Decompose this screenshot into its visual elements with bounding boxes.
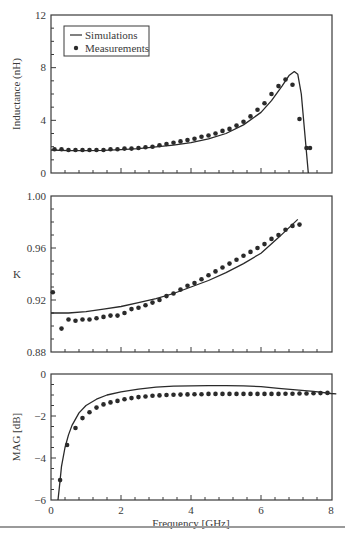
measurement-marker [143,394,148,399]
k-ytick-092: 0.92 [27,294,46,306]
measurement-marker [94,148,99,153]
measurement-marker [248,250,253,255]
measurement-marker [122,146,127,151]
measurement-marker [51,290,56,295]
measurement-marker [101,315,106,320]
measurement-marker [58,478,63,483]
measurement-marker [101,148,106,153]
measurement-marker [94,316,99,321]
measurement-marker [171,393,176,398]
measurement-marker [59,147,64,152]
measurement-marker [276,84,281,89]
measurement-marker [227,127,232,132]
inductance-ylabel: Inductance (nH) [10,58,23,130]
measurement-marker [157,393,162,398]
measurement-marker [227,392,232,397]
measurement-marker [192,137,197,142]
measurement-marker [80,317,85,322]
measurement-marker [178,287,183,292]
measurement-marker [255,246,260,251]
measurement-marker [269,237,274,242]
measurement-marker [304,391,309,396]
k-ticks [51,209,317,352]
mag-ytick-minus6: −6 [34,494,46,506]
measurement-marker [241,254,246,259]
inductance-ytick-12: 12 [35,9,46,21]
measurement-marker [255,108,260,113]
k-plot-frame [51,196,332,352]
legend-measurements-label: Measurements [85,42,149,54]
measurement-marker [262,392,267,397]
measurement-marker [206,273,211,278]
measurement-marker [297,391,302,396]
measurement-marker [297,222,302,227]
measurement-marker [290,391,295,396]
inductance-series [51,72,312,173]
measurement-marker [185,138,190,143]
legend-simulations-label: Simulations [85,29,138,41]
measurement-marker [234,123,239,128]
measurement-marker [87,317,92,322]
measurement-marker [115,399,120,404]
k-ytick-088: 0.88 [27,346,47,358]
measurement-marker [108,400,113,405]
measurement-marker [164,142,169,147]
measurement-marker [164,393,169,398]
measurement-marker [157,143,162,148]
measurement-marker [241,392,246,397]
measurement-marker [94,405,99,410]
measurement-marker [66,317,71,322]
measurement-marker [150,300,155,305]
measurement-marker [171,291,176,296]
simulation-curve [51,219,298,313]
mag-ytick-minus4: −4 [34,452,46,464]
measurement-marker [220,392,225,397]
mag-ytick-minus2: −2 [34,410,46,422]
chart-figure: 0 4 8 12 Inductance (nH) Simulations Mea… [0,0,345,544]
mag-series [58,386,337,500]
measurement-marker [199,135,204,140]
xtick-8: 8 [328,504,334,516]
measurement-marker [241,119,246,124]
measurement-marker [213,269,218,274]
k-series [51,219,302,331]
measurement-marker [276,233,281,238]
k-ylabel: K [13,268,21,280]
measurement-marker [290,224,295,229]
measurement-marker [297,117,302,122]
measurement-marker [108,313,113,318]
measurement-marker [283,77,288,82]
measurement-marker [59,326,64,331]
measurement-marker [248,114,253,119]
simulation-curve [58,386,336,500]
legend-marker-icon [74,46,78,50]
measurement-marker [262,242,267,247]
measurement-marker [248,392,253,397]
k-ytick-096: 0.96 [27,242,47,254]
measurement-marker [220,129,225,134]
k-ytick-100: 1.00 [27,190,47,202]
measurement-marker [66,148,71,153]
measurement-marker [206,392,211,397]
legend: Simulations Measurements [64,26,149,56]
measurement-marker [171,140,176,145]
simulation-curve [51,72,308,173]
measurement-marker [150,144,155,149]
measurement-marker [213,392,218,397]
measurement-marker [206,133,211,138]
measurement-marker [101,402,106,407]
measurement-marker [115,313,120,318]
measurement-marker [108,147,113,152]
measurement-marker [192,281,197,286]
measurement-marker [136,306,141,311]
xtick-6: 6 [258,504,264,516]
measurement-marker [290,83,295,88]
measurement-marker [73,426,78,431]
measurement-marker [178,139,183,144]
measurement-marker [192,392,197,397]
measurement-marker [308,146,313,151]
measurement-marker [52,147,57,152]
xtick-0: 0 [48,504,54,516]
inductance-ytick-4: 4 [41,114,47,126]
inductance-ytick-8: 8 [41,61,47,73]
